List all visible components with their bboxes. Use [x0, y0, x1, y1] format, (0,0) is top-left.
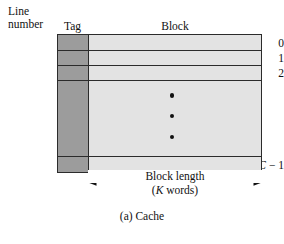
ellipsis-dot — [170, 114, 175, 119]
block-length-label: Block length — [88, 170, 262, 183]
ellipsis-dot — [170, 135, 175, 140]
k-words-label: (K words) — [88, 184, 262, 197]
k-symbol: K — [156, 184, 164, 196]
cache-table — [57, 34, 262, 173]
tag-column-header: Tag — [57, 20, 88, 32]
ellipsis-dot — [170, 93, 175, 98]
block-length-text: Block length — [145, 170, 204, 182]
line-number-axis-label: Line number — [8, 5, 56, 30]
row-divider-last — [58, 156, 261, 157]
vertical-ellipsis-icon — [167, 93, 177, 139]
row-divider-1 — [58, 65, 261, 66]
block-column-header: Block — [88, 20, 262, 32]
cache-structure-figure: Line number Tag Block 0 1 2 C − 1 Block … — [0, 0, 284, 244]
figure-caption: (a) Cache — [0, 210, 284, 223]
tag-column — [58, 35, 89, 172]
row-divider-0 — [58, 50, 261, 51]
row-divider-2 — [58, 80, 261, 81]
